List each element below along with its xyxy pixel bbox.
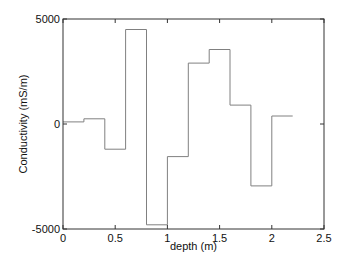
x-tick-label: 2 [269, 232, 275, 244]
axis-ticks: 00.511.522.5-500005000 [32, 13, 332, 244]
x-tick-label: 2.5 [316, 232, 331, 244]
conductivity-chart: 00.511.522.5-500005000 depth (m) Conduct… [0, 0, 347, 265]
y-tick-label: -5000 [32, 223, 60, 235]
axes-frame [63, 19, 324, 229]
step-series-line [63, 30, 293, 225]
x-tick-label: 0 [60, 232, 66, 244]
y-tick-label: 5000 [36, 13, 60, 25]
y-axis-label: Conductivity (mS/m) [17, 74, 29, 173]
x-tick-label: 0.5 [108, 232, 123, 244]
y-tick-label: 0 [54, 118, 60, 130]
x-axis-label: depth (m) [170, 240, 217, 252]
plot-area [63, 30, 293, 225]
